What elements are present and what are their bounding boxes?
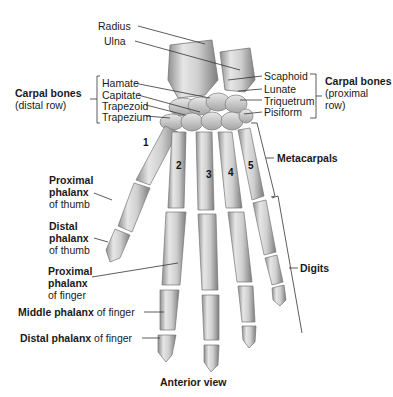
figure-caption: Anterior view [160, 376, 227, 388]
proximal-thumb-line1: Proximal [49, 174, 93, 186]
carpal-proximal-group-label: Carpal bones (proximal row) [325, 75, 392, 111]
label-metacarpals: Metacarpals [277, 152, 338, 164]
middle-finger-bold: Middle phalanx [18, 306, 94, 318]
carpal-proximal-subtitle-1: (proximal [325, 87, 392, 99]
distal-finger-bold: Distal phalanx [20, 332, 91, 344]
label-proximal-phalanx-finger: Proximal phalanx of finger [48, 265, 92, 301]
carpal-distal-title: Carpal bones [15, 87, 82, 99]
label-ulna: Ulna [104, 35, 126, 47]
distal-finger-normal: of finger [91, 332, 132, 344]
proximal-thumb-line3: of thumb [49, 198, 93, 210]
middle-finger-normal: of finger [94, 306, 135, 318]
metacarpal-number-3: 3 [206, 169, 212, 180]
carpal-proximal-title: Carpal bones [325, 75, 392, 87]
proximal-finger-line3: of finger [48, 289, 92, 301]
metacarpal-number-4: 4 [228, 167, 234, 178]
proximal-finger-line2: phalanx [48, 277, 92, 289]
middle-finger-bones [196, 132, 219, 372]
distal-thumb-line3: of thumb [49, 244, 90, 256]
metacarpal-number-5: 5 [248, 160, 254, 171]
label-digits: Digits [300, 262, 329, 274]
label-distal-phalanx-finger: Distal phalanx of finger [20, 332, 132, 344]
ulna-bone [220, 48, 255, 92]
radius-bone [168, 40, 218, 98]
metacarpal-number-2: 2 [176, 160, 182, 171]
proximal-finger-line1: Proximal [48, 265, 92, 277]
distal-thumb-line1: Distal [49, 220, 90, 232]
hand-skeleton-diagram: Radius Ulna Carpal bones (distal row) Ha… [0, 0, 393, 397]
label-proximal-phalanx-thumb: Proximal phalanx of thumb [49, 174, 93, 210]
metacarpal-number-1: 1 [143, 137, 149, 148]
label-radius: Radius [98, 20, 131, 32]
label-scaphoid: Scaphoid [264, 70, 308, 82]
label-distal-phalanx-thumb: Distal phalanx of thumb [49, 220, 90, 256]
label-pisiform: Pisiform [264, 106, 302, 118]
carpal-proximal-subtitle-2: row) [325, 99, 392, 111]
carpal-distal-group-label: Carpal bones (distal row) [15, 87, 82, 111]
carpal-distal-subtitle: (distal row) [15, 99, 66, 111]
label-hamate: Hamate [102, 77, 139, 89]
label-middle-phalanx-finger: Middle phalanx of finger [18, 306, 135, 318]
proximal-thumb-line2: phalanx [49, 186, 93, 198]
label-trapezium: Trapezium [102, 111, 151, 123]
distal-thumb-line2: phalanx [49, 232, 90, 244]
label-lunate: Lunate [264, 83, 296, 95]
